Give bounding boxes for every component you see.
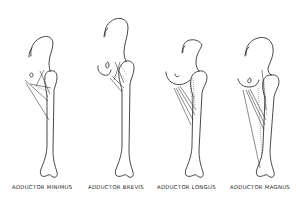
- muscle-lines: [110, 62, 126, 92]
- figure-adductor-longus: [166, 40, 207, 178]
- figure-adductor-minimus: [25, 36, 57, 177]
- adductor-diagram: [0, 0, 296, 199]
- label-adductor-brevis: ADDUCTOR BREVIS: [88, 184, 144, 190]
- pelvis-outline: [166, 40, 202, 85]
- label-adductor-longus: ADDUCTOR LONGUS: [157, 184, 216, 190]
- femur-outline: [115, 61, 134, 177]
- figure-adductor-magnus: [238, 37, 279, 177]
- femur-outline: [185, 71, 207, 177]
- label-adductor-minimus: ADDUCTOR MINIMUS: [12, 184, 72, 190]
- pelvis-outline: [98, 18, 128, 75]
- label-adductor-magnus: ADDUCTOR MAGNUS: [230, 184, 290, 190]
- pelvis-outline: [238, 37, 273, 87]
- femur-outline: [256, 75, 279, 177]
- figure-adductor-brevis: [98, 18, 134, 177]
- muscle-lines: [243, 70, 267, 168]
